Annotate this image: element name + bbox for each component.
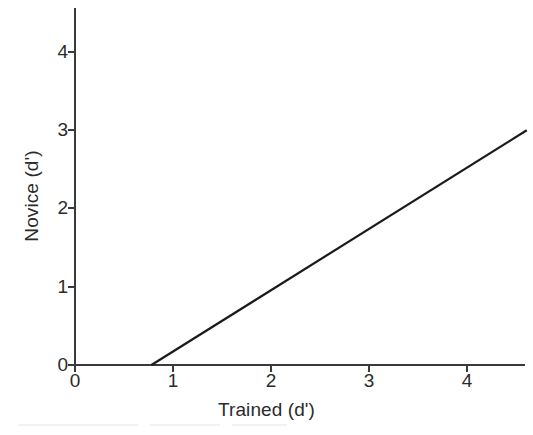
scan-artifact [18, 424, 138, 426]
y-axis-title-wrapper: Novice (d') [21, 76, 47, 316]
y-axis-title: Novice (d') [21, 76, 43, 316]
y-axis-ticks [68, 52, 75, 365]
x-tick-label-0: 0 [55, 370, 95, 392]
x-tick-label-4: 4 [447, 370, 487, 392]
x-tick-label-3: 3 [349, 370, 389, 392]
x-tick-label-2: 2 [251, 370, 291, 392]
scan-artifact [150, 424, 220, 426]
y-tick-label-4: 4 [34, 41, 68, 63]
scan-artifact [232, 424, 287, 426]
data-series-line [151, 130, 526, 365]
x-axis-title: Trained (d') [0, 399, 533, 421]
x-tick-label-1: 1 [153, 370, 193, 392]
chart-figure: 0 1 2 3 4 0 1 2 3 4 Trained (d') Novice … [0, 0, 533, 435]
